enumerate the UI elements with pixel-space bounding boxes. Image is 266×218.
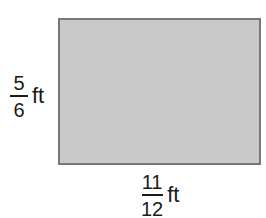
width-denominator: 12	[141, 199, 163, 218]
fraction-bar	[142, 194, 163, 196]
width-fraction: 11 12	[141, 172, 163, 218]
rectangle-shape	[58, 18, 261, 165]
width-numerator: 11	[142, 172, 163, 192]
height-fraction: 5 6	[10, 73, 28, 120]
width-label: 11 12 ft	[141, 172, 179, 218]
height-label: 5 6 ft	[10, 73, 44, 120]
height-numerator: 5	[13, 73, 24, 93]
height-unit: ft	[32, 85, 44, 107]
fraction-bar	[10, 95, 28, 97]
width-unit: ft	[167, 184, 179, 206]
height-denominator: 6	[13, 100, 24, 120]
